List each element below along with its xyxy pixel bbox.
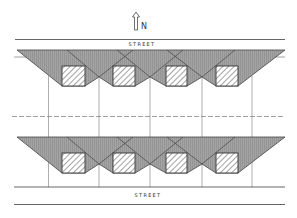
top-street-label: STREET — [129, 41, 156, 47]
bottom-street-label: STREET — [135, 192, 162, 198]
north-arrow-icon — [133, 12, 140, 30]
building-7 — [166, 153, 187, 173]
bottom-row-shadow-area — [17, 137, 285, 173]
building-4 — [216, 66, 238, 86]
building-2 — [113, 66, 135, 86]
building-8 — [216, 153, 238, 173]
north-label: N — [141, 22, 147, 31]
bottom-row — [17, 137, 285, 173]
top-row — [17, 50, 285, 86]
building-3 — [166, 66, 187, 86]
site-plan-diagram — [0, 0, 297, 218]
building-6 — [113, 153, 135, 173]
building-1 — [62, 66, 85, 86]
building-5 — [62, 153, 85, 173]
top-row-shadow-area — [17, 50, 285, 86]
